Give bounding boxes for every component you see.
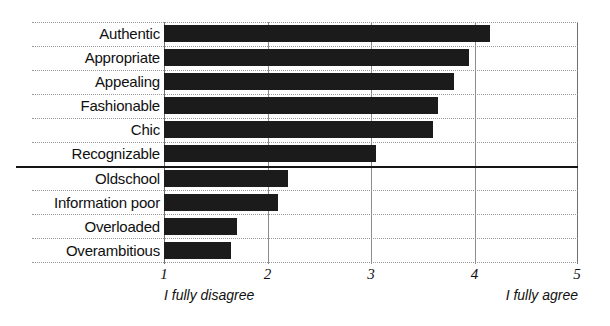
bar-chic: [164, 121, 433, 138]
x-tick-3: 3: [367, 266, 375, 283]
x-tick-4: 4: [471, 266, 479, 283]
horizontal-bar-chart: Authentic Appropriate Appealing Fashiona…: [0, 0, 610, 326]
category-label: Appealing: [95, 70, 160, 94]
bar-information-poor: [164, 194, 278, 211]
category-label: Overambitious: [66, 239, 160, 263]
bar-authentic: [164, 25, 490, 42]
gridline-5: [577, 22, 578, 264]
category-label: Oldschool: [95, 167, 160, 191]
bar-recognizable: [164, 145, 376, 162]
bar-appealing: [164, 73, 454, 90]
x-tick-5: 5: [573, 266, 581, 283]
row-separator: [32, 118, 578, 119]
bar-appropriate: [164, 49, 469, 66]
gridline-4: [475, 22, 476, 264]
scale-high-caption: I fully agree: [506, 287, 578, 303]
category-label: Information poor: [54, 191, 160, 215]
bar-overloaded: [164, 218, 237, 235]
scale-low-caption: I fully disagree: [164, 287, 254, 303]
category-label: Fashionable: [80, 94, 160, 118]
bar-fashionable: [164, 97, 438, 114]
bar-oldschool: [164, 170, 288, 187]
category-label: Recognizable: [72, 142, 161, 166]
category-label: Overloaded: [84, 215, 160, 239]
bar-overambitious: [164, 242, 231, 259]
plot-area: Authentic Appropriate Appealing Fashiona…: [164, 22, 578, 264]
x-tick-1: 1: [160, 266, 168, 283]
x-tick-2: 2: [264, 266, 272, 283]
category-label: Authentic: [99, 22, 160, 46]
category-label: Chic: [131, 118, 160, 142]
category-label: Appropriate: [85, 46, 160, 70]
